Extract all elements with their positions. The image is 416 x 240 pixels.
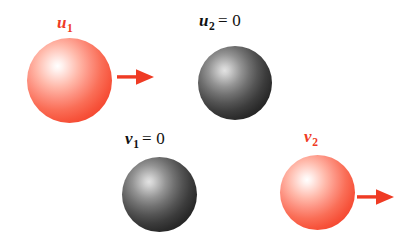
label-v2-subscript: 2 <box>312 136 318 148</box>
label-u2-equals: = 0 <box>215 11 241 30</box>
arrow-right-icon-v2 <box>357 188 395 206</box>
label-v1-equals: = 0 <box>139 129 165 148</box>
sphere-u2 <box>198 46 272 120</box>
sphere-v1 <box>122 157 197 232</box>
label-v1: v1= 0 <box>125 130 165 150</box>
physics-collision-diagram: u1 u2= 0 v1= 0 v2 <box>0 0 416 240</box>
label-v1-variable: v <box>125 129 133 148</box>
sphere-u1 <box>27 38 112 123</box>
label-u1: u1 <box>57 14 73 34</box>
label-v2-variable: v <box>304 127 312 146</box>
label-v2: v2 <box>304 128 318 148</box>
label-u2-variable: u <box>199 11 209 30</box>
label-u2: u2= 0 <box>199 12 241 32</box>
arrow-right-icon-u1 <box>117 68 155 86</box>
label-u1-subscript: 1 <box>67 22 73 34</box>
label-u1-variable: u <box>57 13 67 32</box>
sphere-v2 <box>280 155 355 230</box>
